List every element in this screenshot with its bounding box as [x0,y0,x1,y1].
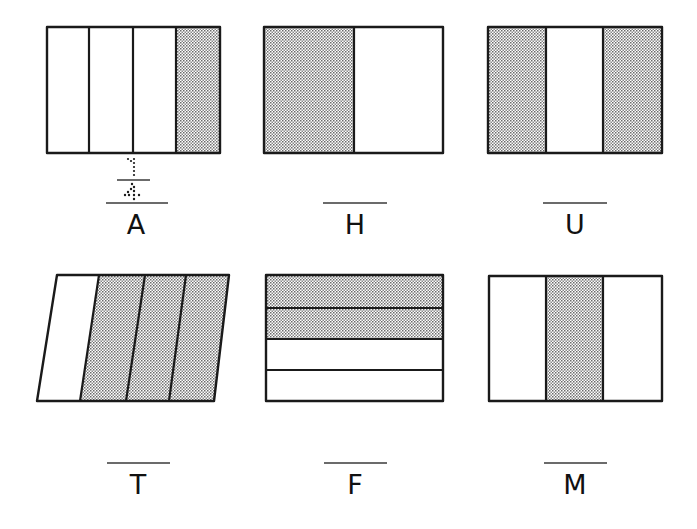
dotted-answer-fraction [117,158,150,200]
shaded-part [546,276,603,401]
shaded-parts [80,275,229,401]
panel-label-h: H [315,211,395,238]
dotted-numeral-4 [124,183,140,200]
panel-label-u: U [535,211,615,238]
shaded-part [488,27,546,153]
panel-label-a: A [96,211,176,238]
shaded-part [176,27,220,153]
fraction-worksheet [0,0,697,529]
panel-label-f: F [315,471,395,498]
panel-label-m: M [535,471,615,498]
shaded-part [603,27,662,153]
panel-t-shape [37,275,229,401]
panel-a-shape [47,27,220,153]
panel-m-shape [489,276,662,401]
panel-u-shape [488,27,662,153]
shaded-part [264,27,354,153]
panel-h-shape [264,27,443,153]
panel-f-shape [266,275,443,401]
dotted-numeral-1 [127,158,135,176]
panel-label-t: T [98,471,178,498]
